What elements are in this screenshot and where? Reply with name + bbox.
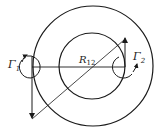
vortex-1-rotation-arrow-icon xyxy=(22,55,27,62)
label-gamma-2: Γ2 xyxy=(132,50,146,65)
label-r12: R12 xyxy=(78,54,95,67)
vortex-pair-diagram: Γ1 Γ2 R12 xyxy=(0,0,166,127)
vortex-2-circle xyxy=(112,57,132,78)
diagonal-line xyxy=(32,40,124,119)
vortex-2-rotation-arrow-icon xyxy=(133,64,137,72)
label-gamma-1: Γ1 xyxy=(7,58,20,73)
